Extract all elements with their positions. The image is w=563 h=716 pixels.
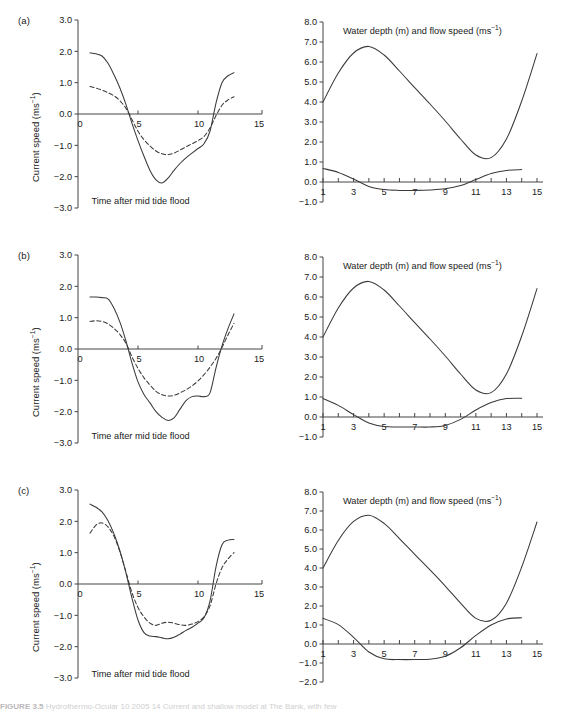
svg-text:2.0: 2.0 (59, 47, 72, 57)
svg-text:8.0: 8.0 (304, 487, 317, 497)
svg-text:5.0: 5.0 (304, 312, 317, 322)
svg-text:3.0: 3.0 (59, 250, 72, 260)
svg-text:−1.0: −1.0 (299, 432, 317, 442)
svg-text:−1.0: −1.0 (54, 376, 72, 386)
svg-text:3.0: 3.0 (304, 582, 317, 592)
svg-text:1.0: 1.0 (304, 392, 317, 402)
svg-text:1.0: 1.0 (59, 313, 72, 323)
panel-b-right: Water depth (m) and flow speed (ms−1) 8.… (281, 235, 563, 470)
svg-text:6.0: 6.0 (304, 292, 317, 302)
svg-text:6.0: 6.0 (304, 57, 317, 67)
svg-text:2.0: 2.0 (59, 282, 72, 292)
svg-text:7.0: 7.0 (304, 506, 317, 516)
svg-text:7.0: 7.0 (304, 272, 317, 282)
svg-text:0.0: 0.0 (59, 344, 72, 354)
svg-text:11: 11 (471, 422, 481, 432)
svg-text:5: 5 (136, 354, 141, 364)
svg-text:1.0: 1.0 (304, 157, 317, 167)
figure-caption: FIGURE 3.5 Hydrothermo-Ocular 10 2005 14… (0, 702, 563, 716)
svg-text:1: 1 (320, 422, 325, 432)
svg-text:0.0: 0.0 (304, 412, 317, 422)
svg-text:7: 7 (412, 187, 417, 197)
panel-a-left: (a) Current speed (ms−1) 3.02.01.00.0−1.… (0, 0, 281, 235)
svg-text:9: 9 (443, 649, 448, 659)
caption-figure-number: FIGURE 3.5 (0, 702, 44, 711)
svg-text:3: 3 (351, 422, 356, 432)
svg-text:−2.0: −2.0 (54, 642, 72, 652)
panel-c-right: Water depth (m) and flow speed (ms−1) 8.… (281, 470, 563, 705)
svg-text:13: 13 (501, 187, 511, 197)
svg-text:3.0: 3.0 (304, 352, 317, 362)
svg-text:10: 10 (194, 589, 204, 599)
svg-text:2.0: 2.0 (304, 601, 317, 611)
x-axis-label-c: Time after mid tide flood (0, 669, 281, 679)
svg-text:3.0: 3.0 (304, 117, 317, 127)
svg-text:5: 5 (382, 187, 387, 197)
panel-c-left: (c) Current speed (ms−1) 3.02.01.00.0−1.… (0, 470, 281, 705)
x-axis-label-a: Time after mid tide flood (0, 196, 281, 206)
svg-text:1.0: 1.0 (59, 78, 72, 88)
svg-text:11: 11 (471, 649, 481, 659)
svg-text:13: 13 (501, 649, 511, 659)
svg-text:13: 13 (501, 422, 511, 432)
svg-text:1: 1 (320, 187, 325, 197)
svg-text:15: 15 (254, 589, 264, 599)
figure-row-a: (a) Current speed (ms−1) 3.02.01.00.0−1.… (0, 0, 563, 235)
svg-text:15: 15 (532, 649, 542, 659)
figure-row-c: (c) Current speed (ms−1) 3.02.01.00.0−1.… (0, 470, 563, 705)
svg-text:10: 10 (194, 119, 204, 129)
chart-b-right: 8.07.06.05.04.03.02.01.00.0−1.0135791113… (281, 235, 563, 470)
svg-text:15: 15 (532, 187, 542, 197)
svg-text:15: 15 (254, 119, 264, 129)
figure-root: (a) Current speed (ms−1) 3.02.01.00.0−1.… (0, 0, 563, 716)
figure-row-b: (b) Current speed (ms−1) 3.02.01.00.0−1.… (0, 235, 563, 470)
svg-text:1.0: 1.0 (59, 548, 72, 558)
svg-text:0.0: 0.0 (304, 639, 317, 649)
svg-text:5.0: 5.0 (304, 544, 317, 554)
svg-text:8.0: 8.0 (304, 17, 317, 27)
svg-text:3: 3 (351, 649, 356, 659)
svg-text:4.0: 4.0 (304, 332, 317, 342)
svg-text:−1.0: −1.0 (54, 611, 72, 621)
svg-text:11: 11 (471, 187, 481, 197)
svg-text:8.0: 8.0 (304, 252, 317, 262)
svg-text:15: 15 (254, 354, 264, 364)
svg-text:2.0: 2.0 (59, 517, 72, 527)
svg-text:5.0: 5.0 (304, 77, 317, 87)
svg-text:−2.0: −2.0 (299, 677, 317, 687)
svg-text:2.0: 2.0 (304, 137, 317, 147)
svg-text:3.0: 3.0 (59, 485, 72, 495)
panel-a-right: Water depth (m) and flow speed (ms−1) 8.… (281, 0, 563, 235)
svg-text:5: 5 (382, 649, 387, 659)
svg-text:0.0: 0.0 (59, 109, 72, 119)
svg-text:7.0: 7.0 (304, 37, 317, 47)
svg-text:−1.0: −1.0 (299, 197, 317, 207)
svg-text:1: 1 (320, 649, 325, 659)
x-axis-label-b: Time after mid tide flood (0, 431, 281, 441)
caption-text: Hydrothermo-Ocular 10 2005 14 Current an… (44, 702, 337, 711)
svg-text:−1.0: −1.0 (299, 658, 317, 668)
svg-text:4.0: 4.0 (304, 97, 317, 107)
svg-text:1.0: 1.0 (304, 620, 317, 630)
svg-text:0: 0 (77, 119, 82, 129)
svg-text:10: 10 (194, 354, 204, 364)
svg-text:−1.0: −1.0 (54, 141, 72, 151)
svg-text:6.0: 6.0 (304, 525, 317, 535)
chart-a-right: 8.07.06.05.04.03.02.01.00.0−1.0135791113… (281, 0, 563, 235)
svg-text:9: 9 (443, 422, 448, 432)
svg-text:3.0: 3.0 (59, 15, 72, 25)
panel-b-left: (b) Current speed (ms−1) 3.02.01.00.0−1.… (0, 235, 281, 470)
svg-text:5: 5 (136, 589, 141, 599)
svg-text:−2.0: −2.0 (54, 172, 72, 182)
svg-text:0: 0 (77, 354, 82, 364)
svg-text:7: 7 (412, 649, 417, 659)
svg-text:3: 3 (351, 187, 356, 197)
svg-text:0.0: 0.0 (59, 579, 72, 589)
svg-text:15: 15 (532, 422, 542, 432)
svg-text:−2.0: −2.0 (54, 407, 72, 417)
svg-text:5: 5 (136, 119, 141, 129)
svg-text:0.0: 0.0 (304, 177, 317, 187)
svg-text:2.0: 2.0 (304, 372, 317, 382)
svg-text:4.0: 4.0 (304, 563, 317, 573)
chart-c-right: 8.07.06.05.04.03.02.01.00.0−1.0−2.013579… (281, 470, 563, 705)
